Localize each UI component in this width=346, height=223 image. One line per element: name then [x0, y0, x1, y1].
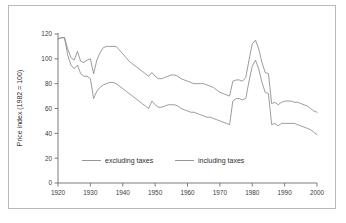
- x-tick-label: 2000: [310, 189, 325, 196]
- series-lines: [58, 38, 317, 135]
- x-tick-label: 1980: [245, 189, 260, 196]
- y-tick-label: 0: [48, 179, 52, 186]
- x-tick-label: 1950: [148, 189, 163, 196]
- price-index-line-chart: 020406080100120 Price index (1982 = 100)…: [0, 0, 346, 223]
- series-line-excluding-taxes: [58, 38, 317, 135]
- chart-legend: excluding taxesincluding taxes: [82, 157, 245, 165]
- x-tick-label: 1940: [116, 189, 131, 196]
- y-axis-title: Price index (1982 = 100): [16, 70, 24, 146]
- x-axis-ticks: 192019301940195019601970198019902000: [51, 183, 325, 196]
- chart-svg: 020406080100120 Price index (1982 = 100)…: [0, 0, 346, 223]
- x-tick-label: 1930: [83, 189, 98, 196]
- x-tick-label: 1990: [278, 189, 293, 196]
- y-tick-label: 80: [45, 80, 53, 87]
- x-tick-label: 1920: [51, 189, 66, 196]
- x-axis: 192019301940195019601970198019902000: [51, 183, 325, 196]
- legend-label-1: including taxes: [198, 157, 245, 165]
- y-tick-label: 20: [45, 155, 53, 162]
- legend-label-0: excluding taxes: [105, 157, 154, 165]
- y-tick-label: 40: [45, 130, 53, 137]
- x-tick-label: 1960: [180, 189, 195, 196]
- y-axis-ticks: 020406080100120: [41, 30, 58, 186]
- series-line-including-taxes: [58, 38, 317, 113]
- y-tick-label: 120: [41, 30, 52, 37]
- y-axis: 020406080100120 Price index (1982 = 100): [16, 30, 58, 186]
- y-tick-label: 100: [41, 55, 52, 62]
- x-tick-label: 1970: [213, 189, 228, 196]
- y-tick-label: 60: [45, 105, 53, 112]
